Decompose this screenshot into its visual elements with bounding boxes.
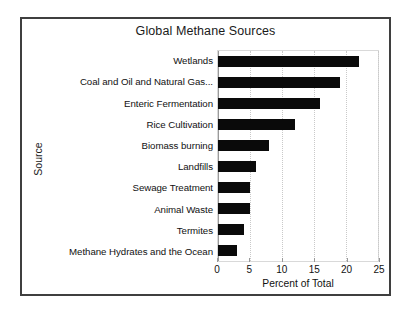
category-label: Sewage Treatment	[44, 177, 216, 198]
bar-row	[218, 93, 378, 114]
bar-row	[218, 72, 378, 93]
category-label-list: WetlandsCoal and Oil and Natural Gas...E…	[44, 50, 216, 262]
x-axis-tick-mark	[314, 258, 315, 262]
y-axis-title-label: Source	[32, 142, 44, 175]
bar-row	[218, 219, 378, 240]
bar-row	[218, 114, 378, 135]
category-label: Coal and Oil and Natural Gas...	[44, 71, 216, 92]
bar-row	[218, 156, 378, 177]
category-label: Rice Cultivation	[44, 114, 216, 135]
plot-area	[217, 50, 379, 262]
category-label: Enteric Fermentation	[44, 92, 216, 113]
bar	[218, 56, 359, 67]
bar	[218, 245, 237, 256]
bar-row	[218, 177, 378, 198]
x-axis-tick-mark	[249, 258, 250, 262]
x-axis-tick-mark	[282, 258, 283, 262]
bar	[218, 98, 320, 109]
chart-screenshot: Global Methane Sources Source WetlandsCo…	[0, 0, 409, 311]
category-label: Landfills	[44, 156, 216, 177]
bar	[218, 182, 250, 193]
x-axis-title: Percent of Total	[217, 278, 379, 289]
x-axis-tick-mark	[217, 258, 218, 262]
x-axis-tick-label: 10	[276, 264, 287, 275]
bar-row	[218, 198, 378, 219]
bar-row	[218, 135, 378, 156]
bar	[218, 203, 250, 214]
gridline	[378, 51, 379, 261]
bar-row	[218, 240, 378, 261]
bar	[218, 119, 295, 130]
x-axis-tick-mark	[379, 258, 380, 262]
bar	[218, 140, 269, 151]
chart-title: Global Methane Sources	[22, 24, 389, 38]
x-axis-tick-label: 0	[214, 264, 220, 275]
x-axis-tick-mark	[347, 258, 348, 262]
x-axis-tick-label: 20	[341, 264, 352, 275]
x-axis-tick-label: 15	[309, 264, 320, 275]
x-axis-tick-label: 5	[247, 264, 253, 275]
category-label: Termites	[44, 220, 216, 241]
x-axis-tick-label: 25	[373, 264, 384, 275]
x-axis-tick-list: 0510152025	[217, 262, 379, 278]
bar-row	[218, 51, 378, 72]
figure-frame: Global Methane Sources Source WetlandsCo…	[20, 17, 391, 296]
category-label: Methane Hydrates and the Ocean	[44, 241, 216, 262]
bar	[218, 224, 244, 235]
bar	[218, 161, 256, 172]
bar-series	[218, 51, 378, 261]
category-label: Wetlands	[44, 50, 216, 71]
category-label: Animal Waste	[44, 198, 216, 219]
bar	[218, 77, 340, 88]
category-label: Biomass burning	[44, 135, 216, 156]
